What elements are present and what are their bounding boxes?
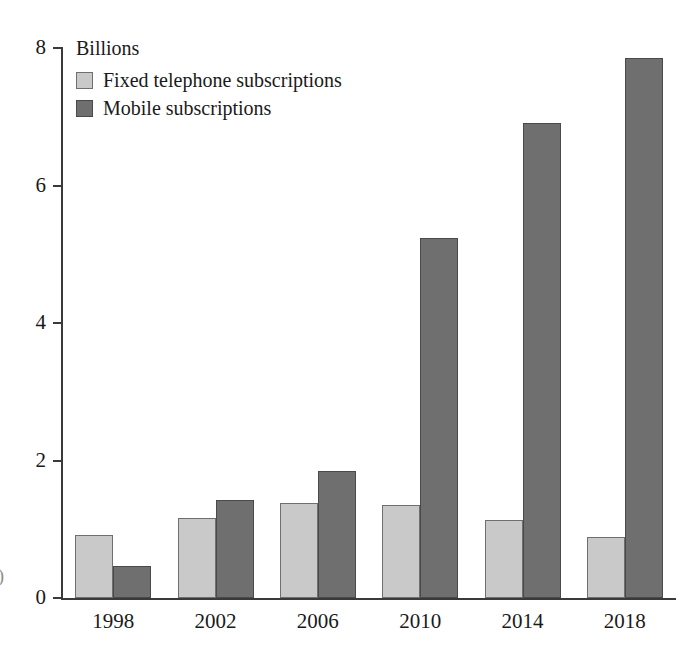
bar-2018-series2 [625,58,663,598]
legend-entries: Fixed telephone subscriptionsMobile subs… [76,68,342,120]
legend: Billions Fixed telephone subscriptionsMo… [76,36,342,124]
y-tick-label: 4 [6,312,46,333]
y-tick-label-wrap: 0 [0,587,46,608]
x-tick-label-2018: 2018 [570,608,680,634]
bar-chart: 02468 199820022006201020142018 Billions … [0,0,691,664]
bar-2006-series1 [280,503,318,598]
bar-1998-series2 [113,566,151,598]
y-tick-label: 8 [6,37,46,58]
y-tick-label-wrap: 6 [0,175,46,196]
bar-2014-series1 [485,520,523,598]
legend-entry-1: Fixed telephone subscriptions [76,68,342,92]
legend-swatch-icon [76,100,93,117]
y-tick-label: 6 [6,175,46,196]
y-tick-8 [53,47,62,49]
legend-swatch-icon [76,72,93,89]
x-tick-label-2014: 2014 [468,608,578,634]
y-tick-label-wrap: 4 [0,312,46,333]
bar-2010-series1 [382,505,420,598]
y-tick-label: 0 [6,587,46,608]
legend-entry-label: Mobile subscriptions [103,96,271,120]
x-tick-label-1998: 1998 [58,608,168,634]
x-axis-line [61,598,676,600]
bar-2002-series1 [178,518,216,598]
y-tick-4 [53,322,62,324]
y-tick-label: 2 [6,450,46,471]
x-tick-label-2002: 2002 [161,608,271,634]
bar-2018-series1 [587,537,625,598]
bar-2002-series2 [216,500,254,598]
y-tick-2 [53,460,62,462]
bar-2014-series2 [523,123,561,598]
y-tick-label-wrap: 2 [0,450,46,471]
bar-2010-series2 [420,238,458,598]
y-tick-0 [53,597,62,599]
x-tick-label-2010: 2010 [365,608,475,634]
legend-entry-label: Fixed telephone subscriptions [103,68,342,92]
bar-1998-series1 [75,535,113,598]
legend-title: Billions [76,36,342,60]
legend-entry-2: Mobile subscriptions [76,96,342,120]
x-tick-label-2006: 2006 [263,608,373,634]
scan-edge-artifact: ) [0,566,4,587]
y-tick-6 [53,185,62,187]
bar-2006-series2 [318,471,356,598]
y-tick-label-wrap: 8 [0,37,46,58]
